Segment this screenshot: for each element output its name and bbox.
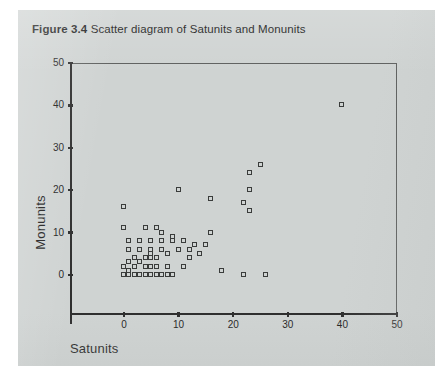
- scatter-point: [121, 264, 126, 269]
- scatter-point: [148, 272, 153, 277]
- scatter-point: [187, 247, 192, 252]
- scatter-point: [121, 272, 126, 277]
- plot-frame-top: [70, 63, 397, 64]
- y-tick-label: 40: [24, 99, 64, 110]
- scatter-point: [148, 264, 153, 269]
- y-axis-line: [70, 63, 72, 324]
- x-tick-label: 10: [164, 319, 194, 330]
- scatter-point: [137, 247, 142, 252]
- scatter-plot: 01020304050 01020304050 Monunits Satunit…: [18, 10, 435, 366]
- scatter-point: [197, 251, 202, 256]
- x-tick-label: 50: [382, 319, 412, 330]
- scatter-point: [176, 187, 181, 192]
- scatter-point: [181, 238, 186, 243]
- x-axis-label: Satunits: [70, 341, 119, 356]
- scatter-point: [208, 196, 213, 201]
- scatter-point: [154, 225, 159, 230]
- y-tick-mark: [68, 274, 73, 277]
- x-tick-mark: [396, 312, 399, 317]
- scatter-point: [132, 264, 137, 269]
- x-tick-label: 20: [218, 319, 248, 330]
- x-tick-mark: [341, 312, 344, 317]
- scatter-point: [165, 251, 170, 256]
- x-tick-label: 30: [273, 319, 303, 330]
- y-tick-label: 50: [24, 57, 64, 68]
- scatter-point: [159, 238, 164, 243]
- scatter-point: [159, 230, 164, 235]
- scatter-point: [121, 225, 126, 230]
- y-axis-label: Monunits: [33, 173, 48, 273]
- scatter-point: [247, 170, 252, 175]
- scatter-point: [137, 272, 142, 277]
- scatter-point: [126, 238, 131, 243]
- scatter-point: [263, 272, 268, 277]
- scatter-point: [137, 259, 142, 264]
- y-tick-mark: [68, 147, 73, 150]
- scatter-point: [126, 259, 131, 264]
- scatter-point: [148, 238, 153, 243]
- scatter-point: [143, 264, 148, 269]
- scatter-point: [219, 268, 224, 273]
- scatter-point: [126, 272, 131, 277]
- scatter-point: [241, 200, 246, 205]
- scatter-point: [132, 255, 137, 260]
- scatter-point: [187, 255, 192, 260]
- scatter-point: [137, 238, 142, 243]
- x-tick-mark: [232, 312, 235, 317]
- scatter-point: [126, 247, 131, 252]
- scatter-point: [192, 242, 197, 247]
- x-tick-mark: [123, 312, 126, 317]
- scatter-point: [159, 272, 164, 277]
- scatter-point: [258, 162, 263, 167]
- scatter-point: [159, 247, 164, 252]
- scatter-point: [165, 264, 170, 269]
- scatter-point: [247, 208, 252, 213]
- scatter-point: [154, 272, 159, 277]
- y-tick-mark: [68, 62, 73, 65]
- y-tick-label: 30: [24, 142, 64, 153]
- x-tick-mark: [287, 312, 290, 317]
- x-tick-mark: [177, 312, 180, 317]
- scatter-point: [143, 225, 148, 230]
- scatter-point: [132, 272, 137, 277]
- x-tick-label: 0: [109, 319, 139, 330]
- figure-panel: Figure 3.4 Scatter diagram of Satunits a…: [18, 10, 435, 366]
- scatter-point: [143, 255, 148, 260]
- scatter-point: [154, 264, 159, 269]
- scatter-point: [176, 247, 181, 252]
- y-tick-mark: [68, 104, 73, 107]
- plot-frame-right: [396, 63, 397, 314]
- scatter-point: [339, 102, 344, 107]
- x-tick-label: 40: [327, 319, 357, 330]
- scatter-point: [181, 264, 186, 269]
- scatter-point: [208, 230, 213, 235]
- scatter-point: [121, 204, 126, 209]
- y-tick-mark: [68, 189, 73, 192]
- scatter-point: [170, 238, 175, 243]
- scatter-point: [241, 272, 246, 277]
- scatter-point: [170, 272, 175, 277]
- scatter-point: [165, 272, 170, 277]
- scatter-point: [154, 255, 159, 260]
- scatter-point: [203, 242, 208, 247]
- scatter-point: [148, 255, 153, 260]
- scatter-point: [247, 187, 252, 192]
- scatter-point: [143, 272, 148, 277]
- y-tick-mark: [68, 231, 73, 234]
